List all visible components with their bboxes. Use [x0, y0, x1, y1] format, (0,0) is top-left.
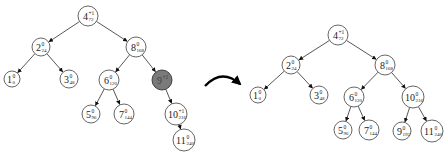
tree-node-6: 60120	[344, 87, 364, 107]
edge-10-to-11	[418, 107, 426, 121]
node-balance-factor: 0	[42, 41, 45, 47]
edge-2-to-1	[18, 54, 35, 73]
edge-10-to-11	[179, 125, 180, 129]
node-key: 1	[7, 74, 12, 85]
node-key: 5	[86, 109, 91, 120]
edge-6-to-7	[113, 89, 120, 104]
tree-node-9: 9+2	[152, 70, 172, 90]
tree-node-8: 80168	[375, 55, 395, 75]
tree-before-rotation: 4+1722024801681003048601209+250967014410…	[4, 6, 195, 151]
node-circle	[152, 70, 172, 90]
node-balance-factor: +2	[163, 74, 169, 80]
node-key: 8	[131, 42, 136, 53]
tree-node-1: 100	[250, 87, 266, 103]
node-value: 216	[179, 115, 187, 120]
node-value: 120	[355, 98, 363, 103]
node-key: 9	[397, 126, 402, 137]
edge-4-to-2	[49, 22, 80, 42]
node-key: 10	[168, 109, 178, 120]
node-balance-factor: 0	[110, 74, 113, 80]
node-value: 144	[125, 115, 133, 120]
tree-node-2: 2024	[32, 38, 50, 56]
node-balance-factor: +1	[89, 10, 95, 16]
edge-8-to-9	[142, 55, 155, 72]
tree-node-7: 70144	[359, 120, 379, 140]
edge-4-to-8	[96, 21, 127, 41]
node-balance-factor: 0	[416, 91, 419, 97]
edge-2-to-1	[264, 71, 284, 89]
node-key: 6	[104, 75, 109, 86]
edge-2-to-3	[297, 72, 312, 88]
node-value: 120	[110, 81, 118, 86]
edge-8-to-10	[392, 73, 406, 89]
node-circle	[78, 6, 98, 26]
node-balance-factor: 0	[13, 73, 16, 79]
node-circle	[114, 104, 134, 124]
node-key: 11	[424, 126, 434, 137]
node-key: 2	[286, 60, 291, 71]
tree-node-1: 100	[4, 71, 20, 87]
node-value: 168	[386, 66, 394, 71]
node-value: 96	[92, 115, 98, 120]
edge-10-to-9	[405, 107, 410, 121]
node-balance-factor: 0	[435, 125, 438, 131]
node-balance-factor: 0	[370, 124, 373, 130]
edge-6-to-7	[358, 106, 365, 120]
tree-node-4: 4+172	[328, 25, 348, 45]
avl-rotation-diagram: 4+1722024801681003048601209+250967014410…	[0, 0, 446, 159]
node-balance-factor: 0	[292, 59, 295, 65]
node-key: 9	[157, 75, 162, 86]
node-balance-factor: 0	[137, 41, 140, 47]
edge-2-to-3	[47, 54, 63, 72]
node-value: 72	[339, 36, 345, 41]
node-balance-factor: +1	[179, 108, 185, 114]
node-balance-factor: 0	[355, 91, 358, 97]
node-balance-factor: 0	[125, 108, 128, 114]
tree-node-11: 110240	[173, 129, 195, 151]
node-circle	[375, 55, 395, 75]
node-key: 3	[64, 74, 69, 85]
node-circle	[99, 70, 119, 90]
node-circle	[328, 25, 348, 45]
tree-node-7: 70144	[114, 104, 134, 124]
node-value: 48	[70, 80, 76, 85]
node-balance-factor: 0	[70, 73, 73, 79]
node-key: 11	[176, 135, 186, 146]
edge-8-to-6	[361, 72, 378, 89]
tree-after-rotation: 4+17220248016810030486012010021650967014…	[250, 25, 443, 142]
node-value: 24	[292, 66, 298, 71]
rotation-arrow-icon	[205, 76, 240, 86]
tree-node-3: 3048	[310, 86, 328, 104]
node-circle	[359, 120, 379, 140]
node-key: 7	[364, 125, 369, 136]
edge-9-to-10	[166, 89, 172, 103]
node-key: 4	[333, 30, 338, 41]
node-balance-factor: 0	[403, 125, 406, 131]
edge-6-to-5	[346, 106, 351, 121]
node-key: 8	[380, 60, 385, 71]
node-key: 2	[36, 42, 41, 53]
node-key: 1	[253, 90, 258, 101]
tree-node-8: 80168	[126, 37, 146, 57]
node-value: 144	[370, 131, 378, 136]
tree-node-5: 5096	[334, 121, 352, 139]
tree-node-5: 5096	[82, 105, 100, 123]
tree-node-10: 100216	[402, 86, 424, 108]
node-value: 48	[320, 96, 326, 101]
node-balance-factor: 0	[344, 124, 347, 130]
edge-8-to-6	[116, 55, 130, 72]
node-value: 240	[187, 141, 195, 146]
tree-node-4: 4+172	[78, 6, 98, 26]
node-circle	[126, 37, 146, 57]
node-key: 5	[338, 125, 343, 136]
node-balance-factor: 0	[320, 89, 323, 95]
node-balance-factor: 0	[259, 89, 262, 95]
node-value: 192	[403, 132, 411, 137]
node-balance-factor: 0	[92, 108, 95, 114]
node-key: 3	[314, 90, 319, 101]
tree-node-3: 3048	[60, 70, 78, 88]
node-balance-factor: +1	[339, 29, 345, 35]
node-balance-factor: 0	[386, 59, 389, 65]
node-key: 6	[349, 92, 354, 103]
tree-node-2: 2024	[282, 56, 300, 74]
